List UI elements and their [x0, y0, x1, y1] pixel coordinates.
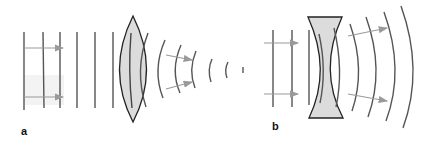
- plane-wavefronts-incident-b: [273, 30, 309, 107]
- lens-wavefront-diagram: [0, 0, 433, 145]
- diverging-wavefronts: [350, 6, 413, 128]
- incident-rays-b: [264, 43, 298, 94]
- panel-a: [24, 16, 243, 122]
- panel-a-label: a: [21, 125, 27, 137]
- converging-rays: [166, 55, 192, 89]
- concave-lens: [308, 17, 343, 118]
- convex-lens: [120, 16, 147, 122]
- panel-b: [264, 6, 413, 128]
- converging-wavefronts: [140, 33, 243, 107]
- panel-b-label: b: [272, 120, 279, 132]
